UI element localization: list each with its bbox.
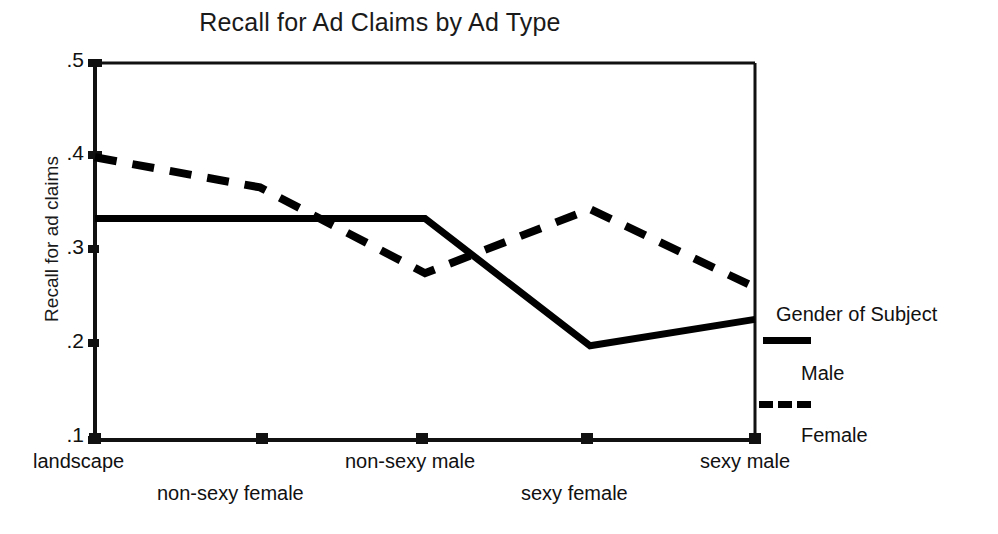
plot-area <box>0 0 998 534</box>
legend-swatch-male <box>763 337 811 344</box>
series-line-male <box>95 219 755 346</box>
legend-label-female: Female <box>801 424 868 447</box>
legend-label-male: Male <box>801 362 844 385</box>
legend-swatch-female <box>759 401 811 408</box>
chart-figure: Recall for Ad Claims by Ad Type Recall f… <box>0 0 998 534</box>
series-layer <box>95 157 755 346</box>
legend-title: Gender of Subject <box>776 303 937 326</box>
axis-lines <box>95 63 755 440</box>
